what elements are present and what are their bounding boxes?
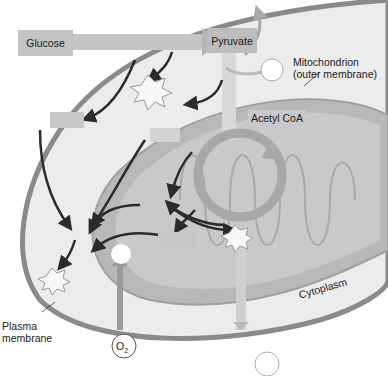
oxygen-acceptor-circle <box>111 244 131 264</box>
pyruvate-box: Pyruvate <box>207 28 257 53</box>
mitochondrion-label-line1: Mitochondrion <box>293 56 377 68</box>
oxygen-label: O2 <box>116 340 128 357</box>
oxygen-arrow-stem <box>117 262 123 330</box>
intermediate-box-3 <box>150 128 180 142</box>
oxygen-subscript: 2 <box>124 347 128 354</box>
acetyl-coa-label: Acetyl CoA <box>251 112 303 124</box>
pyruvate-stem <box>222 50 236 140</box>
mitochondrion-label-line2: (outer membrane) <box>293 68 377 80</box>
mitochondrion-label: Mitochondrion (outer membrane) <box>293 56 377 80</box>
plasma-label-line1: Plasma <box>2 320 52 332</box>
oxygen-symbol: O <box>116 340 124 352</box>
intermediate-box-1 <box>50 112 84 128</box>
intermediate-box-2 <box>158 232 196 248</box>
co2-circle <box>255 352 279 376</box>
glucose-box: Glucose <box>18 30 73 56</box>
plasma-membrane-label: Plasma membrane <box>2 320 52 344</box>
pyruvate-label: Pyruvate <box>211 35 252 47</box>
plasma-label-line2: membrane <box>2 332 52 344</box>
glucose-label: Glucose <box>26 37 65 49</box>
transporter-circle <box>261 59 283 81</box>
acetyl-coa-box: Acetyl CoA <box>248 110 306 126</box>
